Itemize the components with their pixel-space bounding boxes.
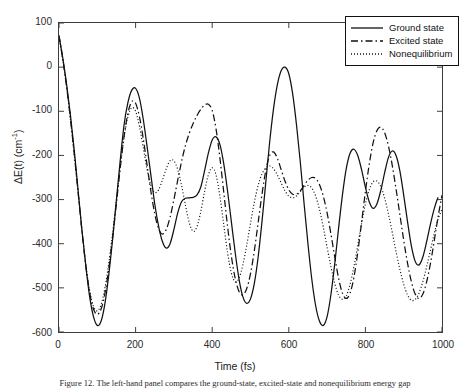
- y-tick-label: -400: [14, 239, 52, 249]
- legend-key-dotted-icon: [350, 49, 384, 59]
- legend-label: Nonequilibrium: [389, 49, 452, 59]
- x-tick-label: 400: [189, 340, 235, 350]
- legend-item-ground-state: Ground state: [350, 22, 452, 34]
- y-axis-title-exponent: -1: [10, 133, 19, 140]
- x-tick-label: 1000: [420, 340, 466, 350]
- y-axis-title-tail: ): [12, 130, 24, 134]
- legend: Ground state Excited state Nonequilibriu…: [345, 16, 459, 66]
- legend-item-excited-state: Excited state: [350, 35, 452, 47]
- x-tick-label: 200: [112, 340, 158, 350]
- legend-item-nonequilibrium: Nonequilibrium: [350, 48, 452, 60]
- axis-ticks: [59, 23, 442, 332]
- series-line-ground-state: [59, 36, 438, 325]
- figure-caption-text: Figure 12. The left-hand panel compares …: [60, 378, 411, 388]
- x-tick-label: 800: [343, 340, 389, 350]
- y-tick-label: -500: [14, 283, 52, 293]
- x-tick-label: 600: [266, 340, 312, 350]
- legend-label: Excited state: [389, 36, 443, 46]
- y-axis-title-main: ΔE(t) (cm: [12, 140, 24, 184]
- x-tick-label: 0: [35, 340, 81, 350]
- y-tick-label: 0: [14, 61, 52, 71]
- legend-key-dashdot-icon: [350, 36, 384, 46]
- plot-area: [58, 22, 443, 333]
- y-tick-label: -600: [14, 328, 52, 338]
- y-axis-title: ΔE(t) (cm-1): [10, 102, 24, 212]
- legend-label: Ground state: [389, 23, 444, 33]
- y-tick-label: 100: [14, 17, 52, 27]
- figure-caption: Figure 12. The left-hand panel compares …: [0, 378, 470, 389]
- x-axis-title: Time (fs): [0, 360, 470, 372]
- chart-canvas: [59, 23, 442, 332]
- legend-key-solid-icon: [350, 23, 384, 33]
- figure-root: 100 0 -100 -200 -300 -400 -500 -600 ΔE(t…: [0, 0, 470, 389]
